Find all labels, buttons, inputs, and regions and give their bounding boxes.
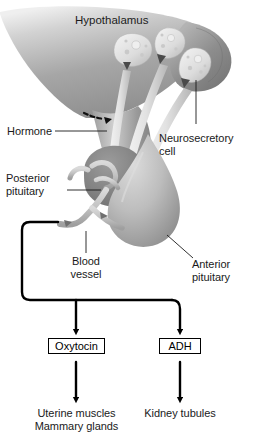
target-arrows (76, 362, 180, 398)
adh-target-tissues: Kidney tubules (138, 407, 222, 420)
oxytocin-target-line-1: Uterine muscles (13, 407, 140, 420)
anterior-pituitary-label-line-2: pituitary (192, 271, 230, 284)
blood-vessel-label-line-1: Blood (62, 255, 110, 268)
posterior-pituitary-label-line-1: Posterior (6, 172, 50, 185)
blood-vessel-label-line-2: vessel (62, 268, 110, 281)
efferent-vessel (60, 190, 106, 225)
posterior-pituitary-label-line-2: pituitary (6, 185, 50, 198)
adh-target-line-1: Kidney tubules (138, 407, 222, 420)
oxytocin-box: Oxytocin (48, 338, 105, 354)
anterior-pituitary-label-line-1: Anterior (192, 258, 230, 271)
neurosecretory-cell-label-line-2: cell (159, 145, 234, 158)
neurosecretory-cell-label-line-1: Neurosecretory (159, 132, 234, 145)
posterior-pituitary-label: Posterior pituitary (6, 172, 50, 197)
adh-box: ADH (159, 338, 201, 354)
flow-branch-adh (172, 300, 180, 330)
anterior-pituitary-label: Anterior pituitary (192, 258, 230, 283)
hypothalamus-label: Hypothalamus (75, 14, 149, 26)
blood-vessel-label: Blood vessel (62, 255, 110, 280)
leader-anterior-pituitary (167, 235, 193, 258)
oxytocin-target-tissues: Uterine muscles Mammary glands (13, 407, 140, 432)
neurosecretory-cell-label: Neurosecretory cell (159, 132, 234, 157)
hormone-label: Hormone (0, 125, 52, 138)
hypothalamus-pituitary-diagram (0, 0, 253, 444)
oxytocin-target-line-2: Mammary glands (13, 420, 140, 433)
hormone-label-line-1: Hormone (0, 125, 52, 138)
